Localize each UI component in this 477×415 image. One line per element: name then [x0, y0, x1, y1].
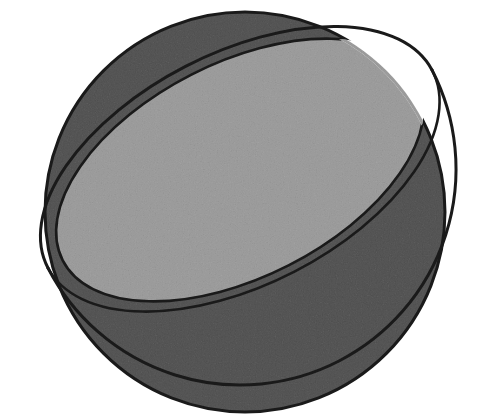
hemisphere-figure: Hemisphere Shaded three-dimensional draw…: [0, 0, 477, 415]
hemisphere-drawing: [0, 0, 477, 415]
